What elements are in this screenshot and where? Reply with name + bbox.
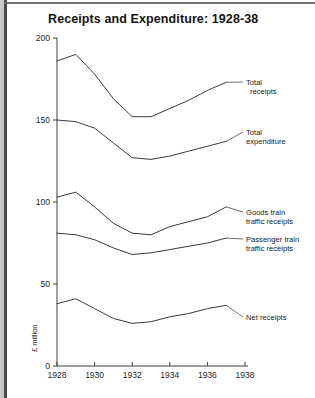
series-label-4: Net receipts bbox=[246, 313, 287, 322]
leader-line-1 bbox=[226, 132, 243, 141]
series-line-1 bbox=[57, 120, 226, 159]
y-axis: 050100150200 bbox=[36, 33, 57, 371]
series-label-line2: expenditure bbox=[246, 137, 286, 146]
x-tick-label: 1930 bbox=[85, 370, 104, 380]
chart-plot-area: 050100150200 192819301932193419361938 £ … bbox=[0, 0, 315, 398]
series-label-line1: Total bbox=[246, 128, 286, 137]
chart-page: Receipts and Expenditure: 1928-38 050100… bbox=[0, 0, 315, 398]
y-axis-title: £ million bbox=[30, 324, 39, 352]
series-label-line2: traffic receipts bbox=[246, 244, 299, 253]
y-tick-label: 50 bbox=[41, 279, 51, 289]
y-tick-label: 150 bbox=[36, 115, 50, 125]
y-tick-label: 100 bbox=[36, 197, 50, 207]
series-line-2 bbox=[57, 192, 226, 235]
series-label-0: Totalreceipts bbox=[246, 78, 277, 97]
series-lines bbox=[57, 54, 226, 323]
series-line-0 bbox=[57, 54, 226, 116]
series-label-line1: Net receipts bbox=[246, 313, 287, 322]
x-tick-label: 1928 bbox=[48, 370, 67, 380]
series-label-3: Passenger traintraffic receipts bbox=[246, 235, 299, 254]
x-tick-label: 1936 bbox=[198, 370, 217, 380]
series-label-1: Totalexpenditure bbox=[246, 128, 286, 147]
series-line-4 bbox=[57, 299, 226, 324]
series-label-line1: Goods train bbox=[246, 208, 293, 217]
series-label-line2: receipts bbox=[246, 87, 277, 96]
leader-line-4 bbox=[226, 305, 243, 317]
series-label-line2: traffic receipts bbox=[246, 217, 293, 226]
series-label-2: Goods traintraffic receipts bbox=[246, 208, 293, 227]
y-tick-label: 200 bbox=[36, 33, 50, 43]
x-axis: 192819301932193419361938 bbox=[48, 362, 255, 380]
leader-line-3 bbox=[226, 238, 243, 239]
leader-lines bbox=[226, 82, 243, 317]
series-line-3 bbox=[57, 233, 226, 254]
x-tick-label: 1932 bbox=[123, 370, 142, 380]
x-tick-label: 1938 bbox=[236, 370, 255, 380]
series-label-line1: Total bbox=[246, 78, 277, 87]
leader-line-2 bbox=[226, 207, 243, 212]
series-label-line1: Passenger train bbox=[246, 235, 299, 244]
x-tick-label: 1934 bbox=[160, 370, 179, 380]
